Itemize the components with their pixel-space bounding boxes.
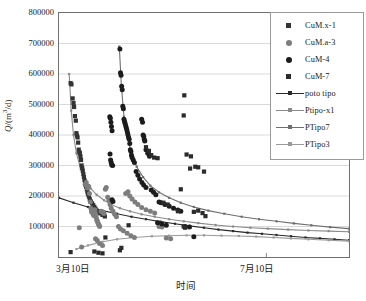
curve-marker	[96, 194, 98, 196]
x-axis-tick-start: 3月10日	[56, 261, 90, 275]
legend-item[interactable]: CuM-7	[275, 68, 360, 85]
curve-marker	[70, 110, 72, 112]
curve-marker	[293, 222, 295, 224]
y-axis-title-text: Q/(m3/d)	[3, 100, 13, 133]
curve-marker	[348, 231, 349, 233]
curve-marker	[238, 235, 240, 237]
curve-marker	[348, 240, 349, 242]
data-point	[132, 160, 137, 165]
data-point	[74, 119, 78, 123]
curve-marker	[348, 228, 349, 230]
curve-marker	[75, 248, 77, 250]
curve-marker	[275, 220, 277, 222]
legend-item[interactable]: PTipo7	[275, 119, 360, 136]
legend-label: Ptipo-x1	[305, 106, 334, 115]
curve-marker	[203, 227, 205, 229]
data-point	[69, 82, 73, 86]
legend-key-line-icon	[275, 122, 305, 134]
curve-marker	[215, 224, 217, 226]
data-point	[156, 156, 160, 160]
legend-key-circle-icon	[275, 54, 305, 66]
legend-item[interactable]: CuM.a-3	[275, 34, 360, 51]
data-point	[108, 151, 113, 156]
curve-marker	[116, 238, 118, 240]
data-point	[110, 128, 115, 133]
data-point	[153, 192, 158, 197]
data-point	[182, 93, 186, 97]
data-point	[139, 205, 144, 210]
legend-key-square-icon	[275, 20, 305, 32]
legend-label: poto tipo	[305, 89, 336, 98]
data-point	[71, 96, 75, 100]
data-point	[168, 236, 173, 241]
data-point	[72, 105, 76, 109]
y-axis-tick-label: 800000	[2, 8, 54, 17]
legend-label: CuM.a-3	[305, 38, 335, 47]
curve-marker	[287, 228, 289, 230]
data-point	[71, 101, 75, 105]
data-point	[140, 120, 145, 125]
legend-item[interactable]: PTipo3	[275, 136, 360, 153]
curve-marker	[183, 220, 185, 222]
data-point	[164, 236, 169, 241]
data-point	[192, 210, 196, 214]
curve-marker	[307, 229, 309, 231]
curve-marker	[232, 225, 234, 227]
curve-marker	[75, 152, 77, 154]
curve-marker	[72, 134, 74, 136]
curve-marker	[207, 210, 209, 212]
legend-item[interactable]: poto tipo	[275, 85, 360, 102]
curve-marker	[307, 238, 309, 240]
curve-marker	[220, 235, 222, 237]
data-point	[69, 250, 73, 254]
data-point	[144, 185, 149, 190]
data-point	[127, 223, 131, 227]
data-point	[119, 246, 123, 250]
data-point	[100, 251, 104, 255]
data-point	[142, 139, 147, 144]
data-point	[127, 141, 132, 146]
data-point	[171, 206, 176, 211]
data-point	[88, 200, 93, 205]
curve-marker	[267, 228, 269, 230]
y-axis-tick-label: 300000	[2, 161, 54, 170]
data-point	[185, 152, 189, 156]
curve-marker	[68, 73, 70, 75]
x-axis-tick-mid: 7月10日	[240, 261, 274, 275]
curve-marker	[142, 176, 144, 178]
curve-marker	[273, 236, 275, 238]
curve-marker	[319, 237, 321, 239]
y-axis-tick-label: 100000	[2, 222, 54, 231]
data-point	[196, 209, 200, 213]
data-point	[121, 106, 126, 111]
curve-marker	[145, 218, 147, 220]
curve-poto-tipo	[59, 198, 349, 240]
legend-key-circle-icon	[275, 37, 305, 49]
data-point	[79, 244, 84, 249]
curve-marker	[158, 191, 160, 193]
data-point	[164, 223, 169, 228]
curve-marker	[186, 234, 188, 236]
data-point	[110, 163, 115, 168]
data-point	[155, 220, 160, 225]
legend-item[interactable]: Ptipo-x1	[275, 102, 360, 119]
legend-item[interactable]: CuM.x-1	[275, 17, 360, 34]
curve-marker	[241, 216, 243, 218]
data-point	[147, 149, 151, 153]
curve-marker	[304, 236, 306, 238]
curve-marker	[261, 233, 263, 235]
data-point	[179, 187, 183, 191]
data-point	[73, 114, 77, 118]
curve-marker	[310, 224, 312, 226]
curve-marker	[168, 197, 170, 199]
data-point	[189, 154, 193, 158]
curve-marker	[246, 232, 248, 234]
curve-marker	[151, 235, 153, 237]
curve-marker	[180, 202, 182, 204]
data-point	[166, 202, 170, 206]
legend-item[interactable]: CuM-4	[275, 51, 360, 68]
curve-marker	[275, 234, 277, 236]
data-point	[104, 185, 109, 190]
curve-marker	[255, 235, 257, 237]
data-point	[114, 214, 119, 219]
